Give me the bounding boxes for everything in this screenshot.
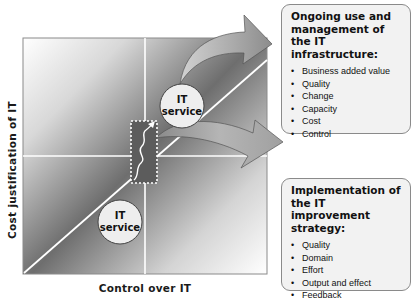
panel-list: Quality Domain Effort Output and effect … [291,239,403,298]
y-axis-label: Cost justification of IT [6,101,18,239]
list-item: Change [291,90,403,103]
panel-title: Implementation of the IT improvement str… [291,184,403,234]
list-item: Output and effect [291,277,403,290]
implementation-panel: Implementation of the IT improvement str… [281,178,411,291]
circle-label-line1: IT [98,210,142,222]
x-axis-label: Control over IT [99,282,192,294]
list-item: Cost [291,115,403,128]
it-service-label-lower: IT service [98,210,142,234]
list-item: Quality [291,78,403,91]
list-item: Domain [291,252,403,265]
ongoing-use-panel: Ongoing use and management of the IT inf… [281,4,411,134]
circle-label-line1: IT [160,94,204,106]
panel-list: Business added value Quality Change Capa… [291,65,403,140]
list-item: Control [291,128,403,141]
transition-box [131,121,157,183]
list-item: Effort [291,264,403,277]
list-item: Business added value [291,65,403,78]
list-item: Capacity [291,103,403,116]
circle-label-line2: service [98,222,142,234]
it-service-label-upper: IT service [160,94,204,118]
circle-label-line2: service [160,106,204,118]
panel-title: Ongoing use and management of the IT inf… [291,10,403,60]
list-item: Feedback [291,289,403,298]
list-item: Quality [291,239,403,252]
